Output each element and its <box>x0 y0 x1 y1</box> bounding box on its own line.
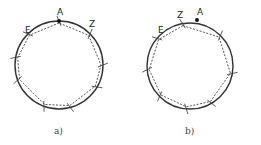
point-label-a: A <box>57 7 64 17</box>
point-a-marker <box>57 19 61 23</box>
point-label-z: Z <box>89 19 95 29</box>
figure-b: ZAEb) <box>142 7 237 136</box>
point-a-marker <box>195 18 199 22</box>
figure-caption: a) <box>54 126 63 136</box>
tick-mark <box>14 76 22 83</box>
dashed-polygon <box>18 23 101 106</box>
tick-mark <box>88 29 92 39</box>
diagram-canvas: AEZa)ZAEb) <box>0 0 261 145</box>
point-label-a: A <box>197 7 204 17</box>
point-label-e: E <box>25 25 31 35</box>
point-label-e: E <box>158 25 164 35</box>
figure-caption: b) <box>185 126 194 136</box>
dashed-polygon <box>149 26 230 107</box>
tick-mark <box>218 31 222 41</box>
point-label-z: Z <box>177 10 183 20</box>
figure-a: AEZa) <box>10 7 108 136</box>
